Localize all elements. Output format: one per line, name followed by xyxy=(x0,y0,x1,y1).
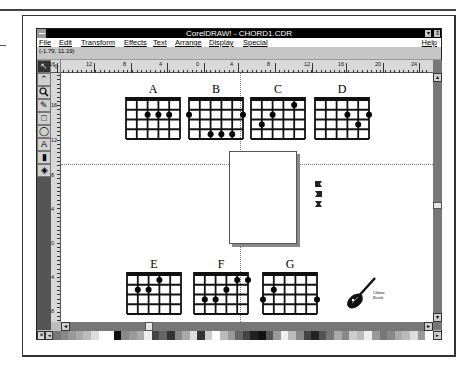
no-color-swatch[interactable]: ✕ xyxy=(37,331,45,340)
color-swatch[interactable] xyxy=(281,331,289,340)
guitar-caption: Gibson Bench xyxy=(373,290,385,300)
color-swatch[interactable] xyxy=(182,331,190,340)
color-swatch[interactable] xyxy=(152,331,160,340)
scroll-down-button[interactable]: ▾ xyxy=(433,313,442,322)
chord-diagram-b[interactable]: B xyxy=(189,97,243,139)
color-swatch[interactable] xyxy=(144,331,152,340)
menu-edit[interactable]: Edit xyxy=(59,38,72,47)
color-swatch[interactable] xyxy=(395,331,403,340)
ruler-label: 12 xyxy=(86,61,92,67)
menu-transform[interactable]: Transform xyxy=(81,38,115,47)
color-swatch[interactable] xyxy=(402,331,410,340)
text-tool-icon[interactable]: A xyxy=(37,138,51,151)
ruler-minor-tick xyxy=(57,114,60,115)
color-swatch[interactable] xyxy=(380,331,388,340)
color-swatch[interactable] xyxy=(68,331,76,340)
system-menu-button[interactable] xyxy=(37,29,47,38)
color-swatch[interactable] xyxy=(243,331,251,340)
outline-tool-icon[interactable]: ▮ xyxy=(37,151,51,164)
vertical-ruler[interactable]: 161284048 xyxy=(51,73,61,322)
color-swatch[interactable] xyxy=(357,331,365,340)
color-swatch[interactable] xyxy=(425,331,433,340)
chord-diagram-e[interactable]: E xyxy=(127,272,181,314)
color-swatch[interactable] xyxy=(342,331,350,340)
vertical-scrollbar[interactable]: ▴ ▾ xyxy=(433,60,442,330)
chord-diagram-f[interactable]: F xyxy=(194,272,248,314)
horizontal-scrollbar[interactable]: ◂ ▸ xyxy=(61,322,433,331)
rectangle-tool-icon[interactable]: □ xyxy=(37,112,51,125)
palette-scroll-right[interactable]: ▸ xyxy=(433,331,442,340)
ruler-minor-tick xyxy=(57,290,60,291)
color-swatch[interactable] xyxy=(326,331,334,340)
color-swatch[interactable] xyxy=(250,331,258,340)
restore-button[interactable]: ⇕ xyxy=(433,29,441,38)
scroll-right-button[interactable]: ▸ xyxy=(424,322,433,331)
color-swatch[interactable] xyxy=(114,331,122,340)
ellipse-tool-icon[interactable]: ◯ xyxy=(37,125,51,138)
color-swatch[interactable] xyxy=(296,331,304,340)
guitar-clipart[interactable]: Gibson Bench xyxy=(343,276,379,316)
chord-diagram-d[interactable]: D xyxy=(315,97,369,139)
color-swatch[interactable] xyxy=(159,331,167,340)
scroll-up-button[interactable]: ▴ xyxy=(433,73,442,82)
color-swatch[interactable] xyxy=(106,331,114,340)
ruler-minor-tick xyxy=(57,122,60,123)
menu-display[interactable]: Display xyxy=(209,38,234,47)
color-swatch[interactable] xyxy=(220,331,228,340)
color-swatch[interactable] xyxy=(266,331,274,340)
color-swatch[interactable] xyxy=(258,331,266,340)
fill-tool-icon[interactable]: ◈ xyxy=(37,164,51,177)
color-swatch[interactable] xyxy=(167,331,175,340)
color-swatch[interactable] xyxy=(364,331,372,340)
color-swatch[interactable] xyxy=(99,331,107,340)
color-swatch[interactable] xyxy=(83,331,91,340)
drawing-canvas[interactable]: ABCDEFG Gibson Bench xyxy=(61,73,433,322)
color-swatch[interactable] xyxy=(372,331,380,340)
shape-tool-icon[interactable]: ⌃ xyxy=(37,73,51,86)
color-swatch[interactable] xyxy=(212,331,220,340)
color-swatch[interactable] xyxy=(304,331,312,340)
color-swatch[interactable] xyxy=(137,331,145,340)
menu-help[interactable]: Help xyxy=(422,38,437,47)
color-swatch[interactable] xyxy=(387,331,395,340)
color-swatch[interactable] xyxy=(190,331,198,340)
color-swatch[interactable] xyxy=(61,331,69,340)
color-swatch[interactable] xyxy=(311,331,319,340)
color-swatch[interactable] xyxy=(228,331,236,340)
color-swatch[interactable] xyxy=(53,331,61,340)
color-swatch[interactable] xyxy=(349,331,357,340)
color-swatch[interactable] xyxy=(129,331,137,340)
horizontal-ruler[interactable]: ✛ 16128404812162024 xyxy=(51,60,433,73)
pencil-tool-icon[interactable]: ✎ xyxy=(37,99,51,112)
finger-dot xyxy=(291,102,297,108)
chord-diagram-g[interactable]: G xyxy=(263,272,317,314)
color-swatch[interactable] xyxy=(175,331,183,340)
ruler-minor-tick xyxy=(57,105,60,106)
color-swatch[interactable] xyxy=(121,331,129,340)
horizontal-scroll-thumb[interactable] xyxy=(145,322,153,331)
menu-arrange[interactable]: Arrange xyxy=(175,38,202,47)
color-swatch[interactable] xyxy=(273,331,281,340)
finger-dot xyxy=(260,296,266,302)
color-swatch[interactable] xyxy=(288,331,296,340)
color-swatch[interactable] xyxy=(235,331,243,340)
menu-file[interactable]: File xyxy=(39,38,51,47)
color-swatch[interactable] xyxy=(76,331,84,340)
chord-diagram-a[interactable]: A xyxy=(126,97,180,139)
vertical-scroll-thumb[interactable] xyxy=(433,202,442,209)
color-swatch[interactable] xyxy=(418,331,426,340)
minimize-button[interactable]: ▾ xyxy=(424,29,432,38)
color-swatch[interactable] xyxy=(91,331,99,340)
menu-effects[interactable]: Effects xyxy=(124,38,147,47)
color-swatch[interactable] xyxy=(205,331,213,340)
palette-scroll-left[interactable]: ◂ xyxy=(45,331,53,340)
menu-special[interactable]: Special xyxy=(243,38,268,47)
scroll-left-button[interactable]: ◂ xyxy=(61,322,70,331)
color-swatch[interactable] xyxy=(334,331,342,340)
chord-diagram-c[interactable]: C xyxy=(251,97,305,139)
zoom-tool-icon[interactable] xyxy=(37,86,51,99)
color-swatch[interactable] xyxy=(410,331,418,340)
color-swatch[interactable] xyxy=(319,331,327,340)
color-swatch[interactable] xyxy=(197,331,205,340)
menu-text[interactable]: Text xyxy=(153,38,167,47)
